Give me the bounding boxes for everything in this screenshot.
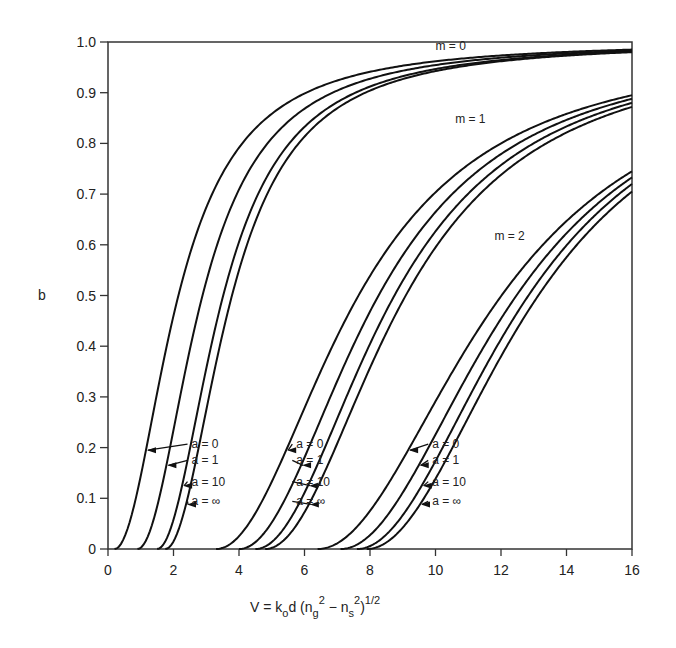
y-tick-label: 0.2 (77, 440, 97, 456)
x-tick-label: 10 (428, 562, 444, 578)
x-tick-label: 6 (301, 562, 309, 578)
mode-label-m1: m = 1 (455, 112, 486, 126)
legend-label: a = 10 (192, 475, 226, 489)
arrow-head-icon (147, 447, 156, 453)
y-tick-label: 0.7 (77, 186, 97, 202)
legend-label: a = ∞ (192, 494, 221, 508)
dispersion-chart: 024681012141600.10.20.30.40.50.60.70.80.… (0, 0, 676, 648)
legend-label: a = 0 (432, 437, 459, 451)
legend-label: a = 10 (432, 475, 466, 489)
y-tick-label: 0.1 (77, 490, 97, 506)
legend-label: a = 0 (296, 437, 323, 451)
arrow-head-icon (409, 447, 418, 453)
leader-line (188, 501, 189, 504)
y-tick-label: 0.9 (77, 85, 97, 101)
x-tick-label: 16 (624, 562, 640, 578)
arrow-head-icon (167, 462, 176, 468)
y-tick-label: 0.8 (77, 135, 97, 151)
curve-m2-a0 (318, 171, 632, 549)
y-tick-label: 0.5 (77, 288, 97, 304)
legend-label: a = 1 (192, 453, 219, 467)
y-tick-label: 0.4 (77, 338, 97, 354)
axis-ticks: 024681012141600.10.20.30.40.50.60.70.80.… (77, 34, 640, 578)
x-tick-label: 12 (493, 562, 509, 578)
x-axis-title: V = kod (ng2 − ns2)1/2 (250, 594, 380, 619)
arrow-head-icon (287, 447, 296, 453)
legend-label: a = 1 (296, 453, 323, 467)
legend-label: a = 0 (192, 437, 219, 451)
y-tick-label: 0 (88, 541, 96, 557)
x-tick-label: 2 (170, 562, 178, 578)
legend-label: a = ∞ (432, 494, 461, 508)
x-tick-label: 0 (104, 562, 112, 578)
x-axis-title-text: V = kod (ng2 − ns2)1/2 (250, 594, 380, 619)
curve-m2-ainf (367, 192, 632, 549)
mode-label-m0: m = 0 (436, 39, 467, 53)
mode-label-m2: m = 2 (494, 229, 525, 243)
legend-label: a = ∞ (296, 494, 325, 508)
x-tick-label: 14 (559, 562, 575, 578)
y-tick-label: 1.0 (77, 34, 97, 50)
y-tick-label: 0.6 (77, 237, 97, 253)
y-axis-title: b (38, 287, 46, 303)
x-tick-label: 8 (366, 562, 374, 578)
x-tick-label: 4 (235, 562, 243, 578)
curve-m0-ainf (165, 52, 632, 549)
legend-label: a = 1 (432, 453, 459, 467)
legend-label: a = 10 (296, 475, 330, 489)
y-tick-label: 0.3 (77, 389, 97, 405)
